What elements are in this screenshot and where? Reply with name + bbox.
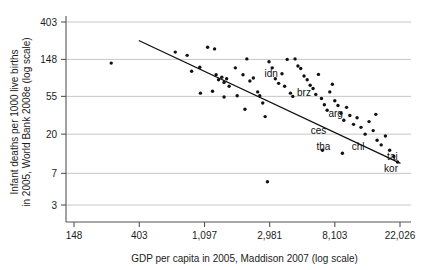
data-point — [227, 85, 230, 88]
data-point — [283, 85, 286, 88]
y-tick-label-20: 20 — [46, 129, 58, 140]
data-point — [363, 132, 366, 135]
data-point — [375, 139, 378, 142]
data-point — [348, 114, 351, 117]
data-point — [384, 134, 387, 137]
data-point — [261, 101, 264, 104]
data-point — [372, 129, 375, 132]
y-axis-title-line1: Infant deaths per 1000 live births — [9, 49, 20, 194]
data-point — [266, 180, 269, 183]
y-tick-label-148: 148 — [40, 54, 57, 65]
data-point — [190, 69, 193, 72]
data-point — [345, 106, 348, 109]
data-point — [320, 97, 323, 100]
data-point — [243, 108, 246, 111]
data-point — [225, 77, 228, 80]
data-point — [235, 94, 238, 97]
data-point — [289, 91, 292, 94]
data-point — [352, 123, 355, 126]
data-point — [222, 95, 225, 98]
data-point — [374, 113, 377, 116]
x-tick-label-403: 403 — [131, 230, 148, 241]
data-point — [206, 46, 209, 49]
y-tick-labels-group: 403148552073 — [40, 17, 57, 211]
data-point — [277, 82, 280, 85]
x-tick-labels-group: 1484031,0972,9818,10322,026 — [66, 230, 416, 241]
data-point — [314, 93, 317, 96]
data-point — [293, 57, 296, 60]
data-point — [263, 115, 266, 118]
data-point — [245, 57, 248, 60]
data-point — [305, 78, 308, 81]
x-axis-title: GDP per capita in 2005, Maddison 2007 (l… — [131, 253, 358, 264]
data-point — [291, 95, 294, 98]
data-point — [355, 116, 358, 119]
data-point — [248, 79, 251, 82]
data-point — [299, 67, 302, 70]
annotation-brz: brz — [297, 87, 311, 98]
data-point — [185, 54, 188, 57]
data-point — [252, 76, 255, 79]
data-point — [367, 120, 370, 123]
data-point — [379, 143, 382, 146]
data-point — [213, 47, 216, 50]
data-point — [333, 99, 336, 102]
x-tick-label-8,103: 8,103 — [322, 230, 347, 241]
scatter-plot: 403148552073 1484031,0972,9818,10322,026… — [0, 0, 422, 270]
annotation-chl: chl — [352, 141, 365, 152]
x-tick-label-148: 148 — [66, 230, 83, 241]
gridlines-group — [66, 22, 411, 205]
data-point — [267, 60, 270, 63]
data-point — [311, 87, 314, 90]
x-tick-label-22,026: 22,026 — [385, 230, 416, 241]
annotation-idn: idn — [264, 68, 277, 79]
y-axis-title-line2: in 2005, World Bank 2008e (log scale) — [21, 37, 32, 206]
data-point — [241, 73, 244, 76]
data-point — [110, 61, 113, 64]
data-point — [296, 64, 299, 67]
annotation-ces: ces — [311, 125, 327, 136]
tick-marks-group — [61, 22, 400, 227]
y-tick-label-3: 3 — [51, 200, 57, 211]
annotation-tai: tai — [387, 151, 398, 162]
y-tick-label-403: 403 — [40, 17, 57, 28]
data-point — [328, 90, 331, 93]
data-point — [302, 74, 305, 77]
data-point — [359, 126, 362, 129]
annotation-kor: kor — [384, 163, 399, 174]
y-tick-label-55: 55 — [46, 91, 58, 102]
data-point — [174, 50, 177, 53]
data-point — [234, 66, 237, 69]
data-point — [256, 90, 259, 93]
chart-figure: 403148552073 1484031,0972,9818,10322,026… — [0, 0, 422, 270]
data-point — [211, 90, 214, 93]
x-tick-label-1,097: 1,097 — [192, 230, 217, 241]
data-point — [280, 72, 283, 75]
data-point — [317, 73, 320, 76]
data-point — [342, 119, 345, 122]
data-points-group — [110, 46, 400, 184]
data-point — [323, 103, 326, 106]
annotation-arg: arg — [328, 108, 342, 119]
data-point — [285, 58, 288, 61]
data-point — [199, 91, 202, 94]
annotation-tha: tha — [316, 141, 330, 152]
data-point — [341, 152, 344, 155]
y-tick-label-7: 7 — [51, 168, 57, 179]
y-axis-title: Infant deaths per 1000 live births in 20… — [9, 37, 32, 206]
data-point — [331, 83, 334, 86]
x-tick-label-2,981: 2,981 — [257, 230, 282, 241]
